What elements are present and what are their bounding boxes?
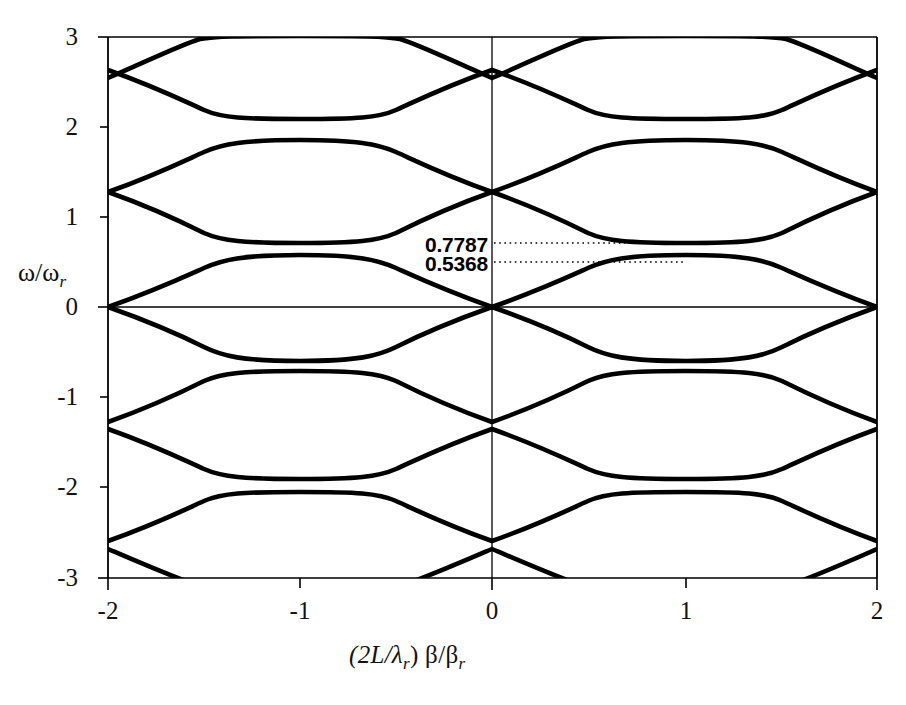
y-tick-label-neg1: -1	[22, 384, 78, 409]
x-axis-title-part2: ) β/β	[410, 641, 458, 668]
gap-leader-lines	[494, 243, 684, 262]
x-axis-title: (2L/λr) β/βr	[349, 641, 465, 674]
x-axis-title-part1: (2L/λ	[349, 641, 403, 668]
x-axis-title-sub2: r	[458, 654, 465, 673]
y-axis-title: ω/ωr	[18, 258, 66, 292]
y-tick-label-neg3: -3	[22, 565, 78, 590]
y-tick-label-1: 1	[30, 204, 78, 229]
band-gap-lower-value: 0.5368	[396, 252, 488, 276]
y-axis-title-main: ω/ω	[18, 258, 59, 287]
y-tick-label-neg2: -2	[22, 474, 78, 499]
x-axis-ticks	[108, 578, 877, 590]
x-tick-label-1: 1	[656, 598, 716, 623]
y-tick-label-0: 0	[30, 294, 78, 319]
x-axis-title-sub1: r	[403, 654, 410, 673]
y-axis-title-subscript: r	[59, 272, 66, 291]
y-tick-label-3: 3	[30, 24, 78, 49]
x-tick-label-2: 2	[847, 598, 906, 623]
x-tick-label-neg2: -2	[78, 598, 138, 623]
x-tick-label-neg1: -1	[270, 598, 330, 623]
y-tick-label-2: 2	[30, 114, 78, 139]
y-axis-ticks	[98, 37, 108, 578]
figure-canvas: 3 2 1 0 -1 -2 -3 -2 -1 0 1 2 ω/ωr (2L/λr…	[0, 0, 906, 705]
x-tick-label-0: 0	[462, 598, 522, 623]
